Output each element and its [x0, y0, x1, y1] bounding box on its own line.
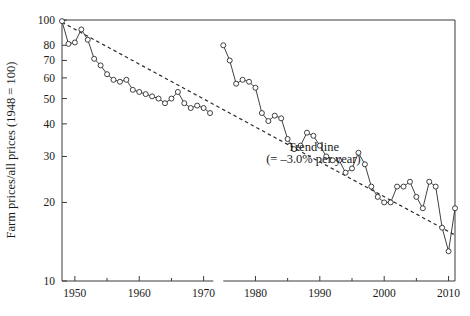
data-point — [156, 96, 161, 101]
data-point — [453, 206, 458, 211]
farm-prices-chart: 1020304050607080100 19501960197019801990… — [0, 0, 470, 316]
x-tick-label-2010: 2010 — [437, 287, 460, 299]
data-point — [253, 85, 258, 90]
data-point — [117, 79, 122, 84]
chart-figure: 1020304050607080100 19501960197019801990… — [0, 0, 470, 316]
data-point — [234, 81, 239, 86]
data-point — [440, 225, 445, 230]
data-point — [60, 19, 65, 24]
data-point — [143, 92, 148, 97]
data-point — [272, 113, 277, 118]
y-tick-label-10: 10 — [44, 275, 56, 287]
data-point — [369, 184, 374, 189]
data-point — [343, 170, 348, 175]
trend-line-label-line2: (= –3.0% per year) — [266, 152, 361, 166]
data-point — [79, 27, 84, 32]
y-tick-label-50: 50 — [44, 93, 56, 105]
data-point — [66, 41, 71, 46]
data-point — [182, 101, 187, 106]
data-point — [395, 184, 400, 189]
y-tick-label-30: 30 — [44, 150, 56, 162]
data-point — [85, 37, 90, 42]
data-point — [259, 111, 264, 116]
data-point — [388, 200, 393, 205]
data-point — [150, 94, 155, 99]
data-point — [208, 111, 213, 116]
x-tick-label-1980: 1980 — [244, 287, 267, 299]
data-point — [105, 72, 110, 77]
data-point — [188, 106, 193, 111]
data-point — [414, 194, 419, 199]
data-point — [124, 77, 129, 82]
data-point — [175, 89, 180, 94]
data-point — [227, 58, 232, 63]
chart-background — [0, 0, 470, 316]
data-point — [279, 116, 284, 121]
data-point — [111, 77, 116, 82]
y-tick-label-100: 100 — [38, 14, 56, 26]
x-tick-label-1960: 1960 — [128, 287, 151, 299]
data-point — [375, 194, 380, 199]
data-point — [401, 184, 406, 189]
data-point — [362, 162, 367, 167]
data-point — [311, 133, 316, 138]
data-point — [240, 77, 245, 82]
x-tick-label-1950: 1950 — [63, 287, 86, 299]
data-point — [427, 179, 432, 184]
data-point — [420, 206, 425, 211]
data-point — [195, 103, 200, 108]
data-point — [382, 200, 387, 205]
data-point — [304, 130, 309, 135]
data-point — [130, 87, 135, 92]
y-tick-label-80: 80 — [44, 39, 56, 51]
y-tick-label-60: 60 — [44, 72, 56, 84]
y-tick-label-40: 40 — [44, 118, 56, 130]
data-point — [446, 249, 451, 254]
y-tick-label-70: 70 — [44, 54, 56, 66]
data-point — [350, 166, 355, 171]
data-point — [266, 119, 271, 124]
data-point — [221, 43, 226, 48]
y-axis-title: Farm prices/all prices (1948 = 100) — [4, 62, 18, 239]
data-point — [433, 184, 438, 189]
x-tick-label-1990: 1990 — [308, 287, 331, 299]
data-point — [98, 63, 103, 68]
data-point — [407, 179, 412, 184]
data-point — [72, 40, 77, 45]
data-point — [169, 96, 174, 101]
data-point — [137, 89, 142, 94]
data-point — [92, 56, 97, 61]
y-tick-label-20: 20 — [44, 196, 56, 208]
x-tick-label-2000: 2000 — [373, 287, 396, 299]
data-point — [247, 79, 252, 84]
data-point — [201, 106, 206, 111]
x-tick-label-1970: 1970 — [192, 287, 215, 299]
data-point — [162, 101, 167, 106]
